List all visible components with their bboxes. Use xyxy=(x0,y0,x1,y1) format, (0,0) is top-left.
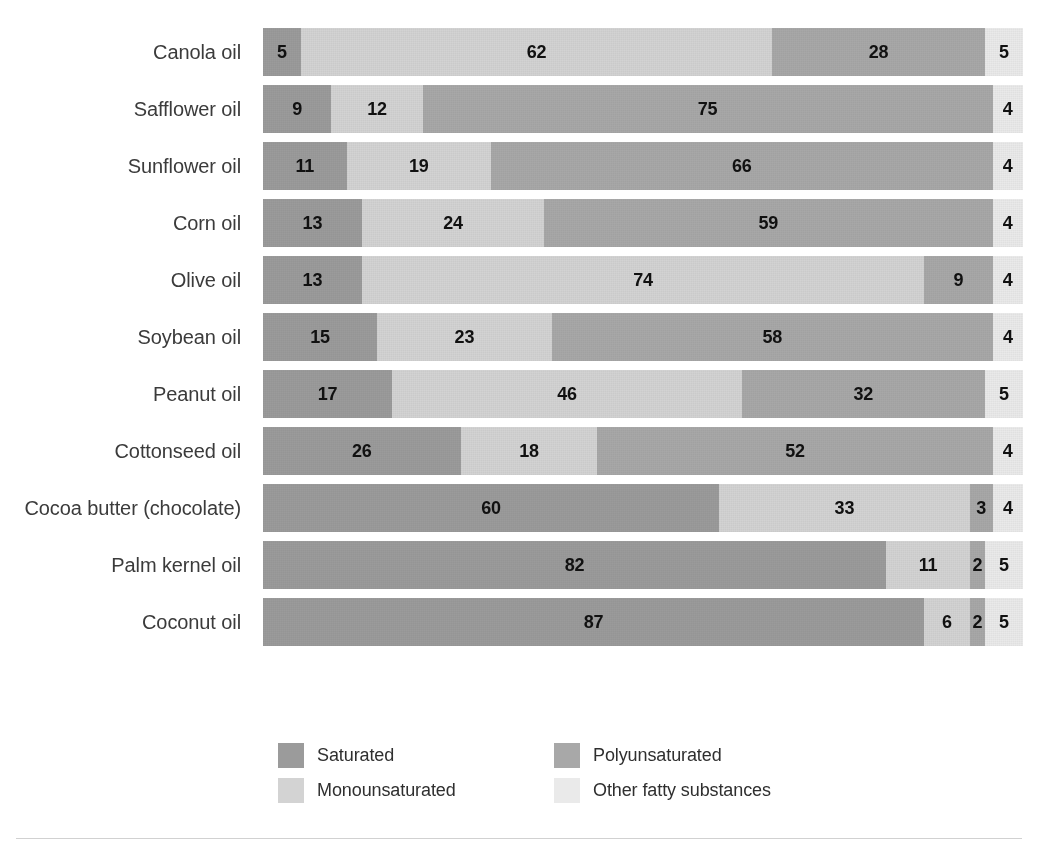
segment-value: 26 xyxy=(352,441,372,462)
chart-row: Coconut oil87625 xyxy=(0,598,1038,646)
segment-value: 82 xyxy=(565,555,585,576)
legend-swatch-polyunsaturated xyxy=(554,743,580,768)
segment-value: 4 xyxy=(1003,213,1013,234)
chart-row: Cocoa butter (chocolate)603334 xyxy=(0,484,1038,532)
segment-value: 75 xyxy=(698,99,718,120)
chart-row: Palm kernel oil821125 xyxy=(0,541,1038,589)
legend-item-other-fatty-substances: Other fatty substances xyxy=(554,778,830,803)
stacked-bar: 137494 xyxy=(263,256,1023,304)
segment-value: 4 xyxy=(1003,498,1013,519)
segment-value: 18 xyxy=(519,441,539,462)
bar-segment-monounsaturated: 24 xyxy=(362,199,544,247)
stacked-bar: 603334 xyxy=(263,484,1023,532)
bar-segment-other-fatty-substances: 4 xyxy=(993,199,1023,247)
clipped-top-caption xyxy=(60,0,480,7)
legend-item-polyunsaturated: Polyunsaturated xyxy=(554,743,830,768)
chart-row: Corn oil1324594 xyxy=(0,199,1038,247)
segment-value: 87 xyxy=(584,612,604,633)
bar-segment-polyunsaturated: 52 xyxy=(597,427,992,475)
legend-label: Monounsaturated xyxy=(317,780,456,801)
segment-value: 5 xyxy=(999,384,1009,405)
chart-row: Olive oil137494 xyxy=(0,256,1038,304)
segment-value: 4 xyxy=(1003,327,1013,348)
row-label: Sunflower oil xyxy=(0,142,252,190)
stacked-bar: 562285 xyxy=(263,28,1023,76)
segment-value: 11 xyxy=(295,156,314,177)
segment-value: 13 xyxy=(303,270,323,291)
chart-row: Peanut oil1746325 xyxy=(0,370,1038,418)
row-label: Peanut oil xyxy=(0,370,252,418)
bar-segment-monounsaturated: 33 xyxy=(719,484,970,532)
legend-label: Other fatty substances xyxy=(593,780,771,801)
segment-value: 62 xyxy=(527,42,547,63)
bar-segment-monounsaturated: 19 xyxy=(347,142,491,190)
bar-segment-other-fatty-substances: 5 xyxy=(985,541,1023,589)
segment-value: 23 xyxy=(455,327,475,348)
row-label: Olive oil xyxy=(0,256,252,304)
chart-row: Canola oil562285 xyxy=(0,28,1038,76)
bar-segment-other-fatty-substances: 5 xyxy=(985,598,1023,646)
bar-segment-other-fatty-substances: 5 xyxy=(985,28,1023,76)
segment-value: 2 xyxy=(972,612,982,633)
chart-row: Sunflower oil1119664 xyxy=(0,142,1038,190)
row-label: Safflower oil xyxy=(0,85,252,133)
bar-segment-other-fatty-substances: 4 xyxy=(993,256,1023,304)
segment-value: 28 xyxy=(869,42,889,63)
segment-value: 46 xyxy=(557,384,577,405)
segment-value: 9 xyxy=(953,270,963,291)
segment-value: 5 xyxy=(999,42,1009,63)
segment-value: 74 xyxy=(633,270,653,291)
row-label: Cottonseed oil xyxy=(0,427,252,475)
bar-segment-other-fatty-substances: 5 xyxy=(985,370,1023,418)
bar-segment-polyunsaturated: 32 xyxy=(742,370,985,418)
segment-value: 9 xyxy=(292,99,302,120)
bar-segment-other-fatty-substances: 4 xyxy=(993,484,1023,532)
stacked-bar: 1324594 xyxy=(263,199,1023,247)
stacked-bar: 2618524 xyxy=(263,427,1023,475)
legend-label: Polyunsaturated xyxy=(593,745,722,766)
legend-label: Saturated xyxy=(317,745,394,766)
segment-value: 33 xyxy=(835,498,855,519)
segment-value: 11 xyxy=(919,555,938,576)
stacked-bar-chart: Canola oil562285Safflower oil912754Sunfl… xyxy=(0,28,1038,718)
bar-segment-polyunsaturated: 2 xyxy=(970,598,985,646)
bar-segment-monounsaturated: 11 xyxy=(886,541,970,589)
segment-value: 19 xyxy=(409,156,429,177)
bar-segment-monounsaturated: 46 xyxy=(392,370,742,418)
bar-segment-polyunsaturated: 2 xyxy=(970,541,985,589)
row-label: Palm kernel oil xyxy=(0,541,252,589)
chart-row: Soybean oil1523584 xyxy=(0,313,1038,361)
bar-segment-polyunsaturated: 28 xyxy=(772,28,985,76)
bar-segment-monounsaturated: 12 xyxy=(331,85,422,133)
bar-segment-other-fatty-substances: 4 xyxy=(993,427,1023,475)
stacked-bar: 87625 xyxy=(263,598,1023,646)
bar-segment-saturated: 13 xyxy=(263,199,362,247)
chart-row: Cottonseed oil2618524 xyxy=(0,427,1038,475)
bar-segment-other-fatty-substances: 4 xyxy=(993,85,1023,133)
chart-page: Canola oil562285Safflower oil912754Sunfl… xyxy=(0,0,1038,851)
bar-segment-saturated: 13 xyxy=(263,256,362,304)
bar-segment-polyunsaturated: 59 xyxy=(544,199,992,247)
segment-value: 5 xyxy=(277,42,287,63)
bar-segment-monounsaturated: 6 xyxy=(924,598,970,646)
segment-value: 4 xyxy=(1003,99,1013,120)
stacked-bar: 1746325 xyxy=(263,370,1023,418)
segment-value: 59 xyxy=(759,213,779,234)
chart-legend: SaturatedPolyunsaturatedMonounsaturatedO… xyxy=(278,738,978,808)
bar-segment-monounsaturated: 18 xyxy=(461,427,598,475)
bar-segment-polyunsaturated: 9 xyxy=(924,256,992,304)
row-label: Corn oil xyxy=(0,199,252,247)
bar-segment-polyunsaturated: 58 xyxy=(552,313,993,361)
segment-value: 24 xyxy=(443,213,463,234)
row-label: Cocoa butter (chocolate) xyxy=(0,484,252,532)
legend-item-saturated: Saturated xyxy=(278,743,554,768)
bar-segment-saturated: 26 xyxy=(263,427,461,475)
row-label: Canola oil xyxy=(0,28,252,76)
bar-segment-polyunsaturated: 66 xyxy=(491,142,993,190)
legend-swatch-monounsaturated xyxy=(278,778,304,803)
row-label: Coconut oil xyxy=(0,598,252,646)
row-label: Soybean oil xyxy=(0,313,252,361)
bar-segment-saturated: 11 xyxy=(263,142,347,190)
segment-value: 32 xyxy=(854,384,874,405)
stacked-bar: 821125 xyxy=(263,541,1023,589)
